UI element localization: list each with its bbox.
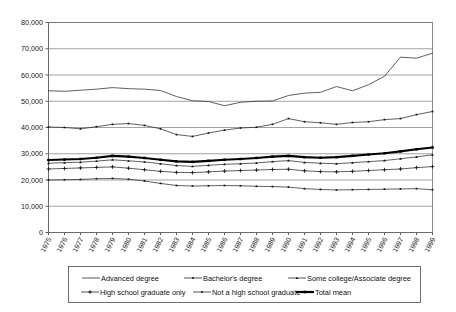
data-point-marker	[240, 127, 242, 129]
data-point-marker	[47, 159, 50, 162]
data-point-marker	[336, 189, 338, 191]
data-point-marker	[271, 155, 274, 158]
data-point-marker	[384, 188, 386, 190]
data-point-marker	[160, 128, 162, 130]
data-point-marker	[144, 125, 146, 127]
data-point-marker	[368, 189, 370, 191]
legend-label: Total mean	[315, 288, 351, 297]
data-point-marker	[128, 178, 130, 180]
data-point-marker	[224, 185, 226, 187]
data-point-marker	[399, 150, 402, 153]
y-tick-label: 30,000	[21, 149, 43, 158]
y-tick-label: 60,000	[21, 71, 43, 80]
data-point-marker	[319, 156, 322, 159]
data-point-marker	[144, 180, 146, 182]
data-point-marker	[159, 159, 162, 162]
data-point-marker	[432, 189, 434, 191]
data-point-marker	[400, 118, 402, 120]
data-point-marker	[95, 156, 98, 159]
data-point-marker	[64, 179, 66, 181]
data-point-marker	[201, 291, 203, 293]
data-point-marker	[128, 123, 130, 125]
data-point-marker	[64, 127, 66, 129]
data-point-marker	[63, 158, 66, 161]
data-point-marker	[112, 178, 114, 180]
data-point-marker	[335, 156, 338, 159]
legend-label: Bachelor's degree	[203, 274, 262, 283]
y-tick-label: 70,000	[21, 44, 43, 53]
data-point-marker	[320, 189, 322, 191]
data-point-marker	[272, 124, 274, 126]
data-point-marker	[336, 124, 338, 126]
legend-item-some-college-associate-degree[interactable]: Some college/Associate degree	[288, 274, 411, 283]
line-chart-figure: 010,00020,00030,00040,00050,00060,00070,…	[0, 0, 456, 312]
y-tick-label: 50,000	[21, 97, 43, 106]
data-point-marker	[208, 132, 210, 134]
data-point-marker	[80, 179, 82, 181]
chart-legend: Advanced degreeBachelor's degreeSome col…	[69, 267, 421, 303]
data-point-marker	[384, 119, 386, 121]
legend-label: Not a high school graduate	[212, 288, 300, 297]
data-point-marker	[96, 126, 98, 128]
data-point-marker	[111, 155, 114, 158]
data-point-marker	[256, 185, 258, 187]
data-point-marker	[320, 122, 322, 124]
y-axis-tick-labels: 010,00020,00030,00040,00050,00060,00070,…	[21, 18, 43, 237]
data-point-marker	[303, 156, 306, 159]
data-point-marker	[240, 185, 242, 187]
data-point-marker	[79, 158, 82, 161]
legend-label: Some college/Associate degree	[307, 274, 411, 283]
data-point-marker	[288, 186, 290, 188]
data-point-marker	[176, 185, 178, 187]
data-point-marker	[208, 185, 210, 187]
data-point-marker	[415, 148, 418, 151]
y-tick-label: 10,000	[21, 202, 43, 211]
data-point-marker	[416, 114, 418, 116]
data-point-marker	[239, 158, 242, 161]
y-tick-label: 80,000	[21, 18, 43, 27]
data-point-marker	[224, 129, 226, 131]
data-point-marker	[127, 155, 130, 158]
data-point-marker	[368, 121, 370, 123]
data-point-marker	[304, 291, 307, 294]
data-point-marker	[80, 128, 82, 130]
data-point-marker	[255, 157, 258, 160]
data-point-marker	[191, 161, 194, 164]
data-point-marker	[256, 126, 258, 128]
data-point-marker	[272, 186, 274, 188]
data-point-marker	[304, 188, 306, 190]
data-point-marker	[288, 118, 290, 120]
data-point-marker	[431, 146, 434, 149]
chart-canvas: 010,00020,00030,00040,00050,00060,00070,…	[0, 0, 456, 312]
legend-label: High school graduate only	[100, 288, 186, 297]
data-point-marker	[112, 124, 114, 126]
data-point-marker	[143, 157, 146, 160]
data-point-marker	[352, 189, 354, 191]
data-point-marker	[432, 111, 434, 113]
data-point-marker	[287, 155, 290, 158]
legend-box	[69, 267, 421, 303]
data-point-marker	[367, 153, 370, 156]
data-point-marker	[223, 159, 226, 162]
data-point-marker	[351, 155, 354, 158]
data-point-marker	[160, 183, 162, 185]
y-tick-label: 40,000	[21, 123, 43, 132]
data-point-marker	[175, 160, 178, 163]
chart-background	[0, 0, 456, 312]
data-point-marker	[192, 136, 194, 138]
y-tick-label: 0	[39, 228, 43, 237]
data-point-marker	[207, 160, 210, 163]
data-point-marker	[96, 178, 98, 180]
data-point-marker	[176, 134, 178, 136]
data-point-marker	[400, 188, 402, 190]
data-point-marker	[192, 277, 194, 279]
data-point-marker	[416, 188, 418, 190]
data-point-marker	[48, 179, 50, 181]
data-point-marker	[192, 185, 194, 187]
legend-label: Advanced degree	[101, 274, 159, 283]
data-point-marker	[383, 152, 386, 155]
data-point-marker	[352, 122, 354, 124]
y-tick-label: 20,000	[21, 176, 43, 185]
data-point-marker	[48, 126, 50, 128]
data-point-marker	[304, 121, 306, 123]
